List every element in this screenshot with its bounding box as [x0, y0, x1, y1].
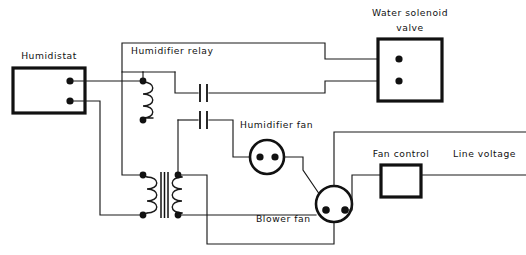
humidifier-fan-terminal-right — [271, 153, 278, 160]
wire-relay-bus-to-transformer-primary-top — [122, 72, 143, 175]
humidistat-label: Humidistat — [21, 50, 77, 61]
water-solenoid-valve-label-line1: Water solenoid — [372, 7, 448, 18]
water-solenoid-valve-label-line2: valve — [396, 22, 423, 33]
wiring-diagram: Humidistat — [0, 0, 526, 255]
relay-contact-upper — [175, 72, 378, 102]
humidistat-enclosure — [13, 68, 85, 113]
wire-humidistat-bottom-to-transformer-primary — [70, 101, 143, 215]
humidifier-fan-label: Humidifier fan — [240, 119, 313, 130]
water-solenoid-valve-terminal-bottom — [395, 77, 402, 84]
blower-fan-label: Blower fan — [256, 213, 311, 224]
transformer-primary-winding — [147, 177, 157, 213]
transformer-primary-terminal-bottom — [140, 212, 147, 219]
wire-transformer-secondary-top-loop-to-blower-fan — [178, 175, 334, 244]
wire-humidifier-fan-to-blower-fan — [284, 157, 322, 198]
component-blower-fan[interactable] — [316, 186, 352, 222]
transformer-core — [161, 172, 168, 218]
transformer-secondary-winding — [172, 177, 182, 213]
relay-coil-terminal-bottom — [140, 117, 147, 124]
relay-coil — [143, 81, 153, 120]
blower-fan-body — [316, 186, 352, 222]
component-fan-control[interactable] — [381, 165, 421, 197]
fan-control-enclosure — [381, 165, 421, 197]
humidifier-fan-terminal-left — [256, 153, 263, 160]
schematic-canvas: Humidistat — [0, 0, 526, 255]
water-solenoid-valve-terminal-top — [395, 55, 402, 62]
water-solenoid-valve-enclosure — [378, 39, 442, 101]
component-transformer[interactable] — [140, 172, 182, 219]
humidifier-relay-label: Humidifier relay — [131, 45, 213, 56]
line-voltage-label: Line voltage — [453, 148, 516, 159]
component-humidistat[interactable] — [13, 68, 85, 113]
fan-control-label: Fan control — [373, 148, 430, 159]
component-humidifier-fan[interactable] — [250, 140, 284, 174]
component-water-solenoid-valve[interactable] — [378, 39, 442, 101]
transformer-primary-terminal-top — [140, 172, 147, 179]
humidifier-fan-body — [250, 140, 284, 174]
blower-fan-terminal-left — [322, 206, 330, 214]
wire-blower-fan-to-line-voltage-upper — [334, 132, 526, 186]
